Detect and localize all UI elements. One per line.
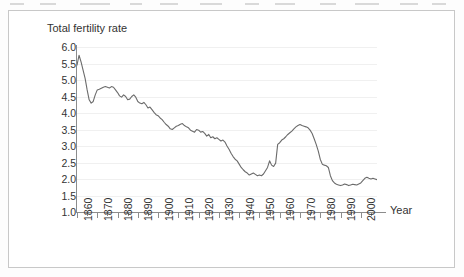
y-tick-label: 3.0 — [61, 141, 76, 152]
x-tick-major — [118, 212, 119, 218]
y-tick-label: 1.5 — [61, 191, 76, 202]
x-tick-major — [219, 212, 220, 218]
chart-title: Total fertility rate — [47, 22, 127, 34]
y-tick-label: 6.0 — [61, 42, 76, 53]
y-tick-label: 5.5 — [61, 59, 76, 70]
x-tick-major — [259, 212, 260, 218]
y-tick-label: 1.0 — [61, 207, 76, 218]
chart-page: Total fertility rate 6.05.55.04.54.03.53… — [0, 0, 464, 277]
x-tick-major — [97, 212, 98, 218]
x-tick-major — [158, 212, 159, 218]
y-tick-label: 4.0 — [61, 108, 76, 119]
x-tick-major — [280, 212, 281, 218]
x-tick-major — [361, 212, 362, 218]
x-tick-major — [239, 212, 240, 218]
y-tick-label: 4.5 — [61, 92, 76, 103]
y-tick-label: 2.0 — [61, 174, 76, 185]
x-tick-major — [320, 212, 321, 218]
x-tick-major — [138, 212, 139, 218]
y-axis-tick-labels: 6.05.55.04.54.03.53.02.52.01.51.0 — [44, 41, 76, 219]
x-axis-title: Year — [390, 204, 412, 216]
x-tick-major — [77, 212, 78, 218]
fertility-rate-line — [77, 47, 377, 212]
series-line-total-fertility-rate — [77, 55, 377, 185]
scan-artifact-marks — [0, 0, 464, 10]
x-tick-major — [300, 212, 301, 218]
x-tick-major — [341, 212, 342, 218]
y-tick-label: 2.5 — [61, 158, 76, 169]
y-tick-label: 3.5 — [61, 125, 76, 136]
x-tick-major — [178, 212, 179, 218]
x-tick-major — [199, 212, 200, 218]
y-tick-label: 5.0 — [61, 75, 76, 86]
